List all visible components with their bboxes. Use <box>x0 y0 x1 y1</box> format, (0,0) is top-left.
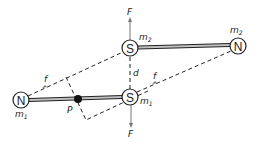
node-n-lower: N <box>13 92 29 108</box>
pivot-label: P <box>67 105 73 115</box>
node-n-lower-letter: N <box>17 94 26 108</box>
node-s-lower: S <box>122 89 138 105</box>
dashed-force-lines <box>28 51 231 120</box>
force-label-bottom: F <box>128 129 134 139</box>
force-arrow-down <box>129 105 133 128</box>
mass-label-n-upper: m2 <box>230 25 243 36</box>
force-label-top: F <box>127 7 133 17</box>
distance-label: d <box>133 68 139 78</box>
f-arrow-left-icon <box>42 85 47 88</box>
node-s-upper-letter: S <box>126 42 134 56</box>
node-s-upper: S <box>122 40 138 56</box>
f-label-left: f <box>44 74 49 84</box>
magnet-couple-diagram: S N S N m2 m2 m1 m1 F F d f f P <box>0 0 261 144</box>
node-n-upper: N <box>230 38 246 54</box>
mass-label-n-lower: m1 <box>15 109 28 120</box>
force-arrow-up <box>128 17 132 40</box>
mass-label-s-upper: m2 <box>139 32 152 43</box>
pivot-point <box>74 95 82 103</box>
f-label-right: f <box>153 71 158 81</box>
mass-label-s-lower: m1 <box>140 96 153 107</box>
diagram-svg: S N S N m2 m2 m1 m1 F F d f f P <box>0 0 261 144</box>
upper-magnet-rod <box>138 45 230 48</box>
node-n-upper-letter: N <box>234 40 243 54</box>
node-s-lower-letter: S <box>126 91 134 105</box>
